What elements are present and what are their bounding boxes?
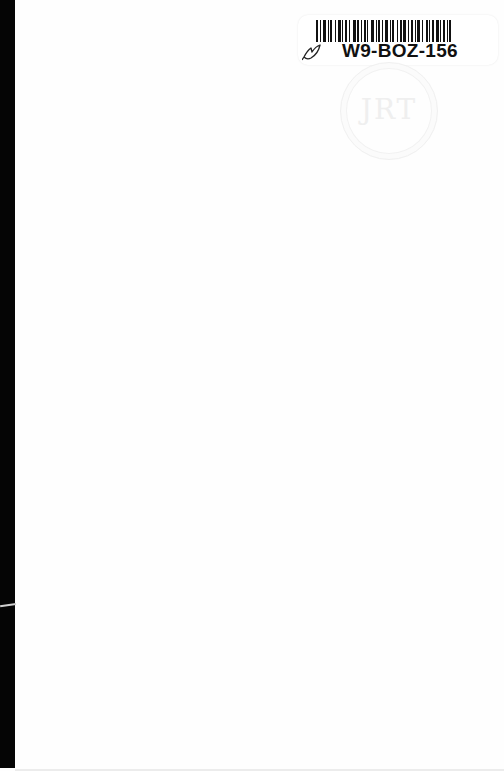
book-page: W9-BOZ-156 JRT: [0, 0, 504, 771]
barcode-sticker: W9-BOZ-156: [298, 15, 498, 65]
leaf-icon: [302, 43, 322, 61]
barcode: [316, 20, 478, 42]
book-spine-edge: [0, 0, 15, 768]
library-stamp: JRT: [340, 62, 438, 160]
barcode-label: W9-BOZ-156: [342, 40, 458, 62]
stamp-text: JRT: [341, 93, 437, 126]
